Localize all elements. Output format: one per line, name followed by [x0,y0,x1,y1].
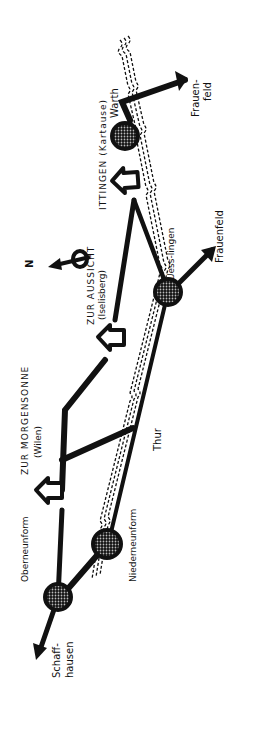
label-schaffhausen-1: Schaff- [51,643,62,678]
label-niederneunforn: Niederneunform [128,509,138,582]
roads [40,80,212,650]
label-frauenfeld-north-1: Frauen- [190,79,201,117]
inn-markers [36,167,139,503]
label-morgensonne-1: ZUR MORGENSONNE [20,366,30,475]
label-frauenfeld-south: Frauenfeld [214,210,225,263]
label-aussicht-1: ZUR AUSSICHT [86,246,96,325]
label-oberneunforn: Oberneunform [20,516,30,582]
label-uesslingen: Uess-lingen [166,228,176,280]
arrow-schaffhausen-icon [33,643,47,660]
inn-marker-ittingen-icon [111,167,139,194]
label-warth: Warth [109,88,120,118]
label-schaffhausen-2: hausen [64,641,75,678]
label-thur-river: Thur [152,427,163,452]
north-arrow-icon [48,251,90,270]
label-morgensonne-2: (Wilen) [33,426,43,458]
inn-marker-aussicht-icon [98,325,124,350]
label-ittingen: ITTINGEN (Kartause) [98,99,108,210]
route-map: N Frauen- feld Warth ITTINGEN (Kartause)… [0,0,264,735]
label-frauenfeld-north-2: feld [202,82,213,101]
town-marker-niederneunforn-icon [93,530,121,558]
inn-marker-morgensonne-icon [36,478,62,503]
compass-label: N [24,260,35,268]
town-marker-oberneunforn-icon [45,584,71,610]
town-markers [45,123,181,610]
town-marker-uesslingen-icon [155,279,181,305]
label-aussicht-2: (Iselisberg) [97,270,107,320]
town-marker-warth-icon [112,123,138,149]
